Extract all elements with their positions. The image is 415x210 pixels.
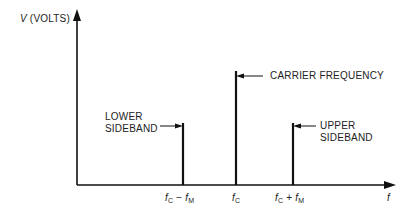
upper-sideband-label-line2: SIDEBAND xyxy=(320,132,373,144)
upper-sideband-label: UPPER SIDEBAND xyxy=(320,120,373,144)
tick-upper: fC + fM xyxy=(275,192,304,207)
y-axis-var: V xyxy=(20,13,27,24)
lower-sideband-label-line2: SIDEBAND xyxy=(105,123,158,135)
x-axis-arrow-icon xyxy=(384,181,396,189)
x-axis-label: f xyxy=(387,192,390,204)
spectrum-diagram xyxy=(0,0,415,210)
y-axis-unit: (VOLTS) xyxy=(30,13,70,24)
y-axis-label: V (VOLTS) xyxy=(20,13,70,25)
lower-sideband-arrow-icon xyxy=(175,124,183,129)
carrier-label: CARRIER FREQUENCY xyxy=(270,70,384,82)
y-axis-arrow-icon xyxy=(73,9,81,21)
tick-carrier: fC xyxy=(232,192,240,207)
lower-sideband-label-line1: LOWER xyxy=(105,111,158,123)
lower-sideband-label: LOWER SIDEBAND xyxy=(105,111,158,135)
tick-lower: fC − fM xyxy=(165,192,194,207)
upper-sideband-label-line1: UPPER xyxy=(320,120,373,132)
carrier-arrow-icon xyxy=(236,74,244,79)
upper-sideband-arrow-icon xyxy=(293,124,301,129)
carrier-label-text: CARRIER FREQUENCY xyxy=(270,70,384,81)
